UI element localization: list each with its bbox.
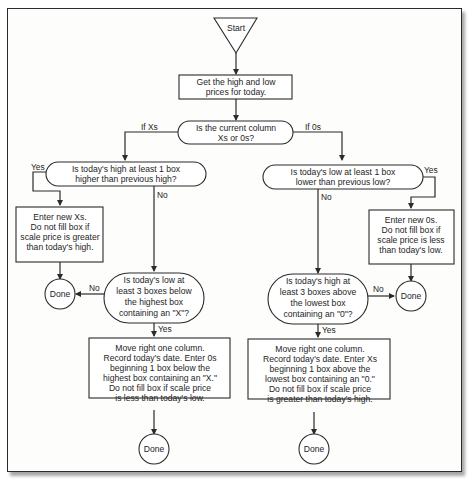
process-text-line: beginning 1 box below the (110, 363, 210, 373)
decision-text-line: the lowest box (291, 298, 347, 308)
flowchart: Start Get the high and low prices for to… (0, 0, 470, 483)
o-reversal-decision: Is today's high at least 3 boxes above t… (268, 274, 368, 324)
decision-text-line: Is today's high at least 1 box (72, 164, 181, 174)
done-terminal: Done (396, 281, 426, 311)
yes-label: Yes (424, 165, 438, 175)
no-label: No (89, 283, 100, 293)
process-text-line: highest box containing an "X." (103, 373, 217, 383)
start-label: Start (227, 23, 246, 33)
process-text-line: than today's low. (379, 245, 442, 255)
yes-label: Yes (31, 162, 45, 172)
process-text-line: Enter new Xs. (33, 212, 87, 222)
no-label: No (373, 284, 384, 294)
decision-text-line: least 3 boxes above (280, 287, 357, 297)
done-label: Done (50, 289, 71, 299)
start-node: Start (214, 18, 257, 53)
x-high-decision: Is today's high at least 1 box higher th… (46, 162, 206, 186)
done-label: Done (304, 444, 325, 454)
if-os-label: If 0s (305, 122, 321, 132)
process-text-line: is less than today's low. (115, 393, 205, 403)
process-text-line: Do not fill box if scale price (269, 384, 371, 394)
process-text-line: lowest box containing an "0." (265, 374, 375, 384)
decision-text-line: containing an "X"? (119, 308, 189, 318)
process-text-line: Do not fill box if (31, 222, 90, 232)
process-text-line: scale price is greater (20, 232, 99, 242)
decision-text-line: least 3 boxes below (116, 286, 192, 296)
process-text-line: Record today's date. Enter Xs (263, 354, 377, 364)
process-text-line: Enter new 0s. (385, 215, 438, 225)
decision-text-line: the highest box (125, 297, 184, 307)
process-text-line: Move right one column. (115, 343, 204, 353)
o-low-decision: Is today's low at least 1 box lower than… (263, 165, 423, 189)
process-text-line: Move right one column. (275, 344, 364, 354)
enter-new-xs-process: Enter new Xs. Do not fill box if scale p… (16, 207, 103, 262)
done-terminal: Done (299, 434, 329, 464)
get-prices-process: Get the high and low prices for today. (179, 75, 292, 99)
no-label: No (157, 190, 168, 200)
done-label: Done (401, 291, 422, 301)
enter-new-os-process: Enter new 0s. Do not fill box if scale p… (369, 210, 454, 264)
decision-text-line: Xs or 0s? (218, 133, 255, 143)
decision-text-line: Is today's low at least 1 box (291, 167, 397, 177)
no-label: No (321, 192, 332, 202)
process-text-line: scale price is less (377, 235, 444, 245)
yes-label: Yes (322, 325, 336, 335)
decision-text-line: Is today's low at (124, 275, 185, 285)
process-text-line: Record today's date. Enter 0s (104, 353, 217, 363)
decision-text-line: Is today's high at (286, 276, 351, 286)
decision-text-line: containing an "0"? (283, 309, 352, 319)
done-terminal: Done (45, 279, 75, 309)
yes-label: Yes (158, 324, 172, 334)
done-terminal: Done (139, 434, 169, 464)
done-label: Done (144, 444, 165, 454)
column-type-decision: Is the current column Xs or 0s? (178, 121, 293, 144)
x-reversal-process: Move right one column. Record today's da… (89, 338, 230, 403)
connector (125, 132, 178, 160)
process-text-line: prices for today. (206, 87, 267, 97)
connector (293, 132, 342, 160)
x-reversal-decision: Is today's low at least 3 boxes below th… (104, 273, 204, 323)
process-text-line: Do not fill box if scale price (109, 383, 211, 393)
decision-text-line: higher than previous high? (75, 174, 177, 184)
process-text-line: Do not fill box if (382, 225, 441, 235)
o-reversal-process: Move right one column. Record today's da… (248, 339, 390, 404)
process-text-line: than today's high. (26, 242, 93, 252)
decision-text-line: lower than previous low? (296, 177, 391, 187)
process-text-line: is greater than today's high. (267, 394, 372, 404)
if-xs-label: If Xs (141, 122, 158, 132)
decision-text-line: Is the current column (196, 123, 276, 133)
process-text-line: Get the high and low (197, 77, 277, 87)
process-text-line: beginning 1 box above the (270, 364, 371, 374)
